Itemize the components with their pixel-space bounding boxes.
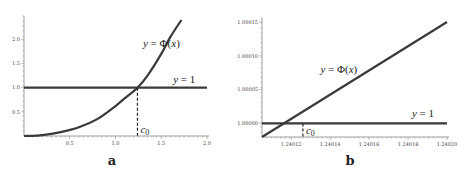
x-tick-label: 1.0 [112, 140, 120, 146]
y-tick-label: 1.00015 [237, 19, 258, 25]
y-tick-label: 1.00010 [237, 53, 258, 59]
label-y-equals-phi-x: y = Φ(x) [319, 63, 357, 76]
chart-panel-a: 0.51.01.52.00.51.01.52.0c0y = Φ(x)y = 1a [12, 16, 211, 168]
c0-label: c0 [306, 124, 315, 138]
chart-panel-b: 1.240121.240141.240161.240181.240201.000… [237, 18, 457, 168]
x-tick-label: 1.5 [157, 140, 165, 146]
figure: 0.51.01.52.00.51.01.52.0c0y = Φ(x)y = 1a… [0, 0, 468, 175]
y-tick-label: 0.5 [12, 109, 20, 115]
x-tick-label: 1.24020 [437, 141, 458, 147]
c0-label: c0 [140, 123, 149, 137]
x-tick-label: 1.24014 [320, 141, 341, 147]
series-curve-phi [262, 22, 447, 137]
y-tick-label: 1.00005 [237, 86, 258, 92]
y-tick-label: 1.00000 [237, 120, 258, 126]
x-tick-label: 1.24012 [281, 141, 302, 147]
x-tick-label: 2.0 [203, 140, 211, 146]
x-tick-label: 0.5 [66, 140, 74, 146]
label-y-equals-1: y = 1 [411, 107, 434, 119]
y-tick-label: 2.0 [12, 36, 20, 42]
panel-label-b: b [345, 153, 354, 168]
x-tick-label: 1.24018 [398, 141, 419, 147]
x-tick-label: 1.24016 [359, 141, 380, 147]
y-tick-label: 1.5 [12, 60, 20, 66]
label-y-equals-1: y = 1 [172, 73, 195, 85]
y-tick-label: 1.0 [12, 84, 20, 90]
panel-label-a: a [108, 153, 117, 168]
label-y-equals-phi-x: y = Φ(x) [142, 37, 180, 50]
